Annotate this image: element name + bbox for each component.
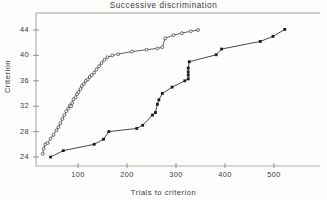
data-point-open-circle xyxy=(130,50,133,53)
data-point-filled-square xyxy=(49,156,52,159)
data-point-open-circle xyxy=(106,56,109,59)
series-line-filled-square-series xyxy=(51,29,285,157)
data-point-open-circle xyxy=(52,133,55,136)
data-point-filled-square xyxy=(157,98,160,101)
x-tick-label: 400 xyxy=(210,170,240,179)
data-point-filled-square xyxy=(62,149,65,152)
data-point-filled-square xyxy=(171,86,174,89)
data-point-open-circle xyxy=(79,88,82,91)
data-point-filled-square xyxy=(272,35,275,38)
data-point-filled-square xyxy=(183,79,186,82)
data-point-filled-square xyxy=(187,74,190,77)
data-point-filled-square xyxy=(215,53,218,56)
data-point-filled-square xyxy=(135,127,138,130)
data-point-filled-square xyxy=(102,138,105,141)
data-point-filled-square xyxy=(161,92,164,95)
data-point-filled-square xyxy=(220,48,223,51)
data-point-filled-square xyxy=(283,28,286,31)
data-point-open-circle xyxy=(117,53,120,56)
data-point-open-circle xyxy=(145,48,148,51)
data-point-open-circle xyxy=(164,37,167,40)
data-point-open-circle xyxy=(90,74,93,77)
data-point-filled-square xyxy=(259,40,262,43)
y-tick-label: 32 xyxy=(7,101,29,110)
data-point-open-circle xyxy=(55,129,58,132)
data-point-filled-square xyxy=(187,78,190,81)
y-tick-label: 24 xyxy=(7,152,29,161)
chart-figure: Successive discrimination Criterion Tria… xyxy=(0,0,327,200)
x-tick-label: 500 xyxy=(259,170,289,179)
data-point-filled-square xyxy=(154,111,157,114)
data-point-open-circle xyxy=(100,62,103,65)
x-tick-label: 200 xyxy=(112,170,142,179)
data-point-open-circle xyxy=(82,83,85,86)
data-point-open-circle xyxy=(74,96,77,99)
data-point-filled-square xyxy=(151,114,154,117)
data-point-open-circle xyxy=(41,152,44,155)
x-tick-label: 100 xyxy=(63,170,93,179)
data-point-filled-square xyxy=(188,60,191,63)
data-point-open-circle xyxy=(70,105,73,108)
data-point-open-circle xyxy=(103,58,106,61)
data-point-open-circle xyxy=(63,114,66,117)
data-point-open-circle xyxy=(67,107,70,110)
data-series-layer xyxy=(41,28,286,158)
data-point-open-circle xyxy=(111,54,114,57)
y-tick-label: 36 xyxy=(7,76,29,85)
data-point-filled-square xyxy=(156,103,159,106)
data-point-open-circle xyxy=(161,46,164,49)
x-tick-label: 300 xyxy=(161,170,191,179)
data-point-filled-square xyxy=(107,130,110,133)
axis-lines xyxy=(36,13,320,166)
axis-tick-marks xyxy=(33,30,274,168)
data-point-filled-square xyxy=(93,143,96,146)
data-point-open-circle xyxy=(172,34,175,37)
data-point-open-circle xyxy=(95,68,98,71)
data-point-open-circle xyxy=(93,71,96,74)
data-point-open-circle xyxy=(197,29,200,32)
data-point-open-circle xyxy=(61,117,64,120)
data-point-open-circle xyxy=(77,91,80,94)
data-point-filled-square xyxy=(141,124,144,127)
data-point-open-circle xyxy=(46,142,49,145)
data-point-open-circle xyxy=(57,126,60,129)
data-point-filled-square xyxy=(187,67,190,70)
data-point-open-circle xyxy=(71,102,74,105)
y-tick-label: 28 xyxy=(7,127,29,136)
data-point-open-circle xyxy=(59,122,62,125)
data-point-open-circle xyxy=(180,32,183,35)
series-line-open-circle-series xyxy=(43,30,198,154)
data-point-open-circle xyxy=(42,147,45,150)
data-point-open-circle xyxy=(189,30,192,33)
data-point-open-circle xyxy=(98,65,101,68)
y-tick-label: 44 xyxy=(7,25,29,34)
data-point-open-circle xyxy=(49,137,52,140)
y-tick-label: 40 xyxy=(7,50,29,59)
data-point-open-circle xyxy=(156,47,159,50)
data-point-filled-square xyxy=(187,71,190,74)
